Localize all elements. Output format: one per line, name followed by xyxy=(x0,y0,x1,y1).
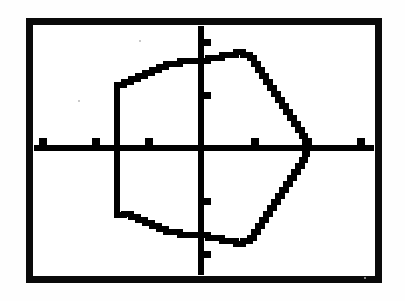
y-tick xyxy=(204,92,211,99)
scan-speck xyxy=(364,277,366,279)
y-tick xyxy=(204,39,211,46)
x-tick xyxy=(145,138,153,145)
y-tick xyxy=(204,198,211,205)
scan-speck xyxy=(139,40,141,42)
calculator-screen-frame xyxy=(26,18,382,283)
scan-speck xyxy=(78,100,80,102)
x-tick xyxy=(92,138,100,145)
x-tick xyxy=(251,138,259,145)
screenshot-canvas xyxy=(0,0,405,301)
x-tick xyxy=(39,138,47,145)
x-tick xyxy=(357,138,365,145)
graph-canvas xyxy=(33,25,375,276)
y-tick xyxy=(204,251,211,258)
curve-segment xyxy=(114,212,127,218)
curve-segment xyxy=(114,82,120,218)
graph-plot-area[interactable] xyxy=(33,25,375,276)
